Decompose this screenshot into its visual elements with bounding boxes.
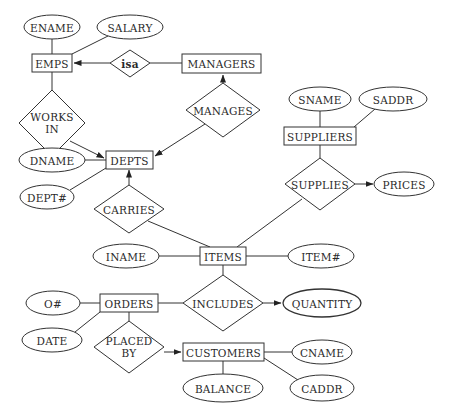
attribute-sname-label: SNAME	[298, 94, 341, 106]
entity-items[interactable]: ITEMS	[200, 247, 246, 265]
attribute-iname-label: INAME	[106, 251, 146, 263]
relationship-placed-by-label-1: PLACED	[106, 335, 153, 347]
relationship-includes-label: INCLUDES	[192, 298, 254, 310]
relationship-includes[interactable]: INCLUDES	[183, 275, 263, 331]
attribute-quantity-label: QUANTITY	[292, 298, 353, 310]
attribute-date[interactable]: DATE	[22, 328, 82, 352]
entity-managers[interactable]: MANAGERS	[182, 54, 261, 73]
attribute-salary-label: SALARY	[107, 22, 153, 34]
entity-items-label: ITEMS	[204, 251, 242, 263]
relationship-carries-label: CARRIES	[103, 204, 155, 216]
attribute-saddr[interactable]: SADDR	[359, 87, 427, 111]
entity-suppliers[interactable]: SUPPLIERS	[284, 127, 356, 145]
attribute-quantity[interactable]: QUANTITY	[283, 289, 361, 317]
attribute-item-no[interactable]: ITEM#	[288, 244, 354, 268]
edge-customers-caddr	[264, 358, 298, 380]
entity-orders[interactable]: ORDERS	[100, 294, 158, 312]
relationship-placed-by-label-2: BY	[122, 347, 138, 359]
edge-date-orders	[75, 312, 100, 332]
attribute-ename-label: ENAME	[30, 22, 74, 34]
relationship-manages-label: MANAGES	[193, 105, 253, 117]
relationship-isa[interactable]: isa	[110, 50, 150, 77]
attribute-order-no[interactable]: O#	[26, 291, 80, 315]
attribute-cname[interactable]: CNAME	[292, 340, 352, 364]
attribute-dname-label: DNAME	[30, 155, 75, 167]
attribute-prices[interactable]: PRICES	[374, 172, 434, 196]
attribute-prices-label: PRICES	[382, 179, 425, 191]
entity-emps-label: EMPS	[35, 58, 68, 70]
relationship-isa-label: isa	[121, 58, 138, 70]
relationship-placed-by[interactable]: PLACED BY	[94, 321, 164, 373]
relationship-supplies[interactable]: SUPPLIES	[285, 158, 355, 210]
attribute-order-no-label: O#	[44, 298, 62, 310]
attribute-salary[interactable]: SALARY	[97, 15, 163, 39]
entity-customers-label: CUSTOMERS	[186, 347, 261, 359]
attribute-cname-label: CNAME	[300, 347, 344, 359]
edge-supplies-items	[237, 199, 302, 247]
edge-salary-emps	[72, 36, 108, 54]
attribute-date-label: DATE	[37, 335, 68, 347]
attribute-iname[interactable]: INAME	[93, 244, 159, 268]
attribute-sname[interactable]: SNAME	[289, 87, 351, 111]
attribute-item-no-label: ITEM#	[301, 251, 340, 263]
relationship-works-in-label-2: IN	[45, 123, 59, 135]
entity-emps[interactable]: EMPS	[32, 54, 72, 72]
entity-depts[interactable]: DEPTS	[106, 151, 153, 169]
attribute-caddr-label: CADDR	[301, 383, 343, 395]
entity-managers-label: MANAGERS	[188, 58, 256, 70]
edge-manages-depts	[155, 124, 205, 156]
attribute-balance[interactable]: BALANCE	[183, 374, 263, 402]
attribute-saddr-label: SADDR	[373, 94, 414, 106]
attribute-ename[interactable]: ENAME	[24, 15, 80, 39]
attribute-dname[interactable]: DNAME	[19, 148, 85, 172]
edge-carries-items	[148, 221, 210, 247]
entity-suppliers-label: SUPPLIERS	[287, 131, 353, 143]
er-diagram: EMPS MANAGERS DEPTS SUPPLIERS ITEMS ORDE…	[0, 0, 454, 415]
attribute-balance-label: BALANCE	[195, 383, 251, 395]
edge-saddr-suppliers	[354, 109, 375, 127]
attribute-dept-no-label: DEPT#	[27, 192, 67, 204]
relationship-works-in-label-1: WORKS	[30, 111, 73, 123]
edge-dept-depts	[70, 168, 106, 190]
attribute-dept-no[interactable]: DEPT#	[20, 185, 74, 209]
entity-customers[interactable]: CUSTOMERS	[183, 343, 264, 361]
entity-orders-label: ORDERS	[105, 298, 154, 310]
relationship-works-in[interactable]: WORKS IN	[19, 90, 85, 156]
relationship-supplies-label: SUPPLIES	[291, 179, 349, 191]
entity-depts-label: DEPTS	[110, 155, 148, 167]
attribute-caddr[interactable]: CADDR	[290, 375, 354, 401]
relationship-carries[interactable]: CARRIES	[94, 185, 164, 233]
